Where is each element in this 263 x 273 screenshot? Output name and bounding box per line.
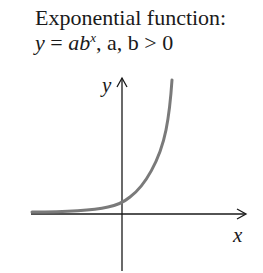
plot-area [0,0,263,273]
x-axis-label: x [233,225,242,245]
exponential-curve [32,80,172,212]
y-axis-label: y [102,75,111,95]
